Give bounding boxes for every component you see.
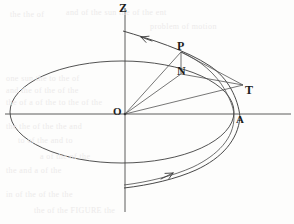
bleed-text: and of the sun the of the ent — [66, 8, 167, 17]
segment-OT — [125, 85, 243, 114]
bleed-text: problem of motion — [150, 22, 217, 31]
orbit-diagram-figure: the the of and of the sun the of the ent… — [0, 0, 294, 224]
bleed-text: the of the FIGURE the — [34, 206, 115, 215]
lower-arrow-icon — [161, 173, 173, 179]
bleed-text: and the of the of the — [6, 86, 79, 95]
lower-spiral-curve-secondary — [124, 117, 234, 185]
upper-spiral-curve-secondary — [181, 52, 234, 117]
segment-NT — [181, 74, 243, 85]
segment-ON — [125, 74, 181, 114]
bleed-text: one sun the to the of — [6, 74, 80, 83]
bleed-text: the of a of the to the of the — [6, 98, 102, 107]
bleed-text: the the of the the and — [6, 122, 82, 131]
point-label-n: N — [177, 65, 186, 77]
point-label-o: O — [113, 106, 122, 117]
point-label-t: T — [245, 84, 253, 96]
bleed-text: the the of — [10, 10, 44, 19]
axis-label-z: Z — [119, 2, 127, 14]
bleed-text: to of the and to — [18, 136, 73, 145]
point-label-p: P — [177, 40, 184, 52]
segment-PT — [181, 52, 243, 85]
bleed-text: in of the of the the — [6, 190, 73, 199]
bleed-text: a of the of the — [40, 152, 90, 161]
origin-point-marker — [124, 113, 127, 116]
point-label-a: A — [236, 114, 244, 125]
bleed-text: the and a of the — [6, 166, 62, 175]
lower-spiral-curve — [124, 117, 240, 188]
